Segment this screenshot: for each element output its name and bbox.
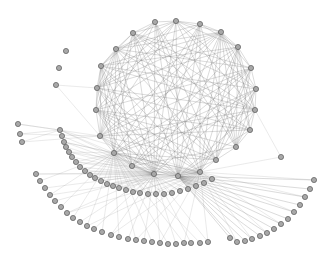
ring-node[interactable] xyxy=(197,21,202,26)
outer-arc-node[interactable] xyxy=(77,219,82,224)
inner-arc-node[interactable] xyxy=(57,127,62,132)
ring-node[interactable] xyxy=(233,144,238,149)
inner-arc-node[interactable] xyxy=(201,180,206,185)
inner-arc-node[interactable] xyxy=(145,191,150,196)
inner-arc-node[interactable] xyxy=(63,144,68,149)
right-fan-node[interactable] xyxy=(291,209,296,214)
ring-node[interactable] xyxy=(94,85,99,90)
inner-arc-node[interactable] xyxy=(177,188,182,193)
right-fan-node[interactable] xyxy=(271,226,276,231)
isolated-node[interactable] xyxy=(56,65,61,70)
ring-node[interactable] xyxy=(111,150,116,155)
outer-arc-node[interactable] xyxy=(91,226,96,231)
ring-node[interactable] xyxy=(218,29,223,34)
inner-arc-node[interactable] xyxy=(209,176,214,181)
outer-arc-node[interactable] xyxy=(58,204,63,209)
outer-arc-node[interactable] xyxy=(47,192,52,197)
right-fan-node[interactable] xyxy=(234,239,239,244)
outer-arc-node[interactable] xyxy=(133,237,138,242)
ring-node[interactable] xyxy=(197,169,202,174)
inner-arc-node[interactable] xyxy=(137,190,142,195)
branch-node[interactable] xyxy=(53,82,58,87)
ring-node[interactable] xyxy=(248,65,253,70)
graph-edge xyxy=(100,66,101,136)
inner-arc-node[interactable] xyxy=(193,183,198,188)
inner-arc-node[interactable] xyxy=(66,149,71,154)
ring-node[interactable] xyxy=(175,173,180,178)
outer-arc-node[interactable] xyxy=(37,178,42,183)
inner-arc-node[interactable] xyxy=(104,181,109,186)
ring-node[interactable] xyxy=(253,86,258,91)
ring-node[interactable] xyxy=(151,171,156,176)
right-fan-node[interactable] xyxy=(242,238,247,243)
outer-arc-node[interactable] xyxy=(52,198,57,203)
outer-arc-node[interactable] xyxy=(108,232,113,237)
right-fan-node[interactable] xyxy=(264,230,269,235)
inner-arc-node[interactable] xyxy=(169,190,174,195)
right-fan-node[interactable] xyxy=(285,216,290,221)
graph-edge xyxy=(250,110,255,130)
ring-node[interactable] xyxy=(97,133,102,138)
right-fan-node[interactable] xyxy=(249,236,254,241)
inner-arc-node[interactable] xyxy=(153,191,158,196)
ring-node[interactable] xyxy=(113,46,118,51)
right-fan-node[interactable] xyxy=(302,194,307,199)
left-stub-node[interactable] xyxy=(19,139,24,144)
outer-arc-node[interactable] xyxy=(70,215,75,220)
outer-arc-node[interactable] xyxy=(33,171,38,176)
graph-edge xyxy=(200,160,216,172)
inner-arc-node[interactable] xyxy=(87,172,92,177)
graph-edge xyxy=(178,176,300,205)
inner-arc-node[interactable] xyxy=(92,175,97,180)
inner-arc-node[interactable] xyxy=(61,139,66,144)
ring-node[interactable] xyxy=(235,44,240,49)
right-fan-node[interactable] xyxy=(311,177,316,182)
outer-arc-node[interactable] xyxy=(157,240,162,245)
ring-node[interactable] xyxy=(247,127,252,132)
ring-node[interactable] xyxy=(130,30,135,35)
outer-arc-node[interactable] xyxy=(141,238,146,243)
outer-arc-node[interactable] xyxy=(181,240,186,245)
right-fan-node[interactable] xyxy=(307,186,312,191)
inner-arc-node[interactable] xyxy=(123,187,128,192)
right-fan-node[interactable] xyxy=(257,233,262,238)
outer-arc-node[interactable] xyxy=(64,210,69,215)
isolated-node[interactable] xyxy=(63,48,68,53)
ring-node[interactable] xyxy=(152,19,157,24)
left-stub-node[interactable] xyxy=(15,121,20,126)
right-fan-node[interactable] xyxy=(278,221,283,226)
outer-arc-node[interactable] xyxy=(173,241,178,246)
inner-arc-node[interactable] xyxy=(77,164,82,169)
inner-arc-node[interactable] xyxy=(98,178,103,183)
right-single-node[interactable] xyxy=(278,154,283,159)
inner-arc-node[interactable] xyxy=(73,159,78,164)
inner-arc-node[interactable] xyxy=(130,189,135,194)
left-stub-node[interactable] xyxy=(17,131,22,136)
ring-node[interactable] xyxy=(98,63,103,68)
outer-arc-node[interactable] xyxy=(116,234,121,239)
inner-arc-node[interactable] xyxy=(82,168,87,173)
ring-node[interactable] xyxy=(173,18,178,23)
ring-node[interactable] xyxy=(93,107,98,112)
inner-arc-node[interactable] xyxy=(116,185,121,190)
outer-arc-node[interactable] xyxy=(188,240,193,245)
graph-edge xyxy=(40,153,114,181)
outer-arc-node[interactable] xyxy=(165,241,170,246)
outer-arc-node[interactable] xyxy=(149,239,154,244)
outer-arc-node[interactable] xyxy=(99,229,104,234)
ring-node[interactable] xyxy=(129,163,134,168)
inner-arc-node[interactable] xyxy=(69,154,74,159)
right-fan-node[interactable] xyxy=(297,202,302,207)
right-fan-node[interactable] xyxy=(227,235,232,240)
inner-arc-node[interactable] xyxy=(110,183,115,188)
outer-arc-node[interactable] xyxy=(84,223,89,228)
ring-node[interactable] xyxy=(213,157,218,162)
outer-arc-node[interactable] xyxy=(125,236,130,241)
outer-arc-node[interactable] xyxy=(197,240,202,245)
outer-arc-node[interactable] xyxy=(205,239,210,244)
inner-arc-node[interactable] xyxy=(161,191,166,196)
inner-arc-node[interactable] xyxy=(185,186,190,191)
ring-node[interactable] xyxy=(252,107,257,112)
inner-arc-node[interactable] xyxy=(59,133,64,138)
outer-arc-node[interactable] xyxy=(42,185,47,190)
